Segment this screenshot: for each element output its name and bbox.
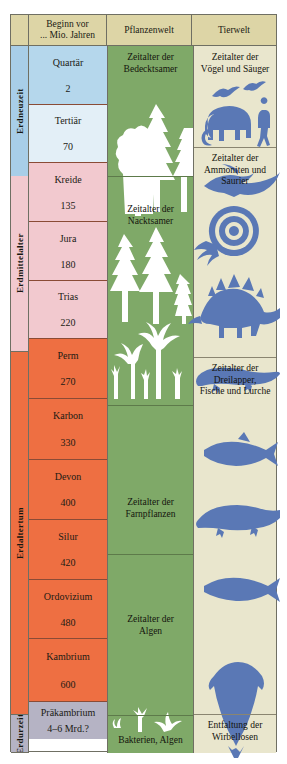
period-row-karbon[interactable]: Karbon330 bbox=[29, 398, 107, 459]
header-plants-column: Pflanzenwelt bbox=[106, 15, 191, 45]
stegosaurus-silhouette-icon bbox=[188, 274, 280, 338]
header-period-column: Beginn vor ... Mio. Jahren bbox=[28, 15, 106, 45]
period-name: Kambrium bbox=[46, 651, 89, 662]
period-age: 480 bbox=[61, 617, 76, 628]
bird-silhouette-icon bbox=[243, 81, 266, 90]
plant-section-divider bbox=[108, 405, 193, 406]
era-cell-erdurzeit[interactable]: Erdurzeit bbox=[11, 715, 28, 753]
period-row-silur[interactable]: Silur420 bbox=[29, 519, 107, 579]
period-age: 600 bbox=[61, 679, 76, 690]
period-row-kambrium[interactable]: Kambrium600 bbox=[29, 638, 107, 701]
trilobite-silhouette-icon bbox=[209, 662, 264, 758]
period-name: Devon bbox=[55, 471, 82, 482]
period-row-tertir[interactable]: Tertiär70 bbox=[29, 104, 107, 162]
animal-section-label: Entfaltung derWirbellosen bbox=[194, 720, 276, 743]
fish-silhouette-2-icon bbox=[204, 578, 280, 602]
label-line: Dreilapper, bbox=[196, 375, 274, 387]
animal-section-divider bbox=[194, 714, 276, 715]
conifer-tree-icon bbox=[139, 104, 175, 212]
label-line: Nacktsamer bbox=[110, 216, 191, 228]
bird-silhouette-icon bbox=[212, 86, 240, 97]
plant-section-label: Zeitalter derBedecktsamer bbox=[108, 52, 193, 75]
mammoth-silhouette-icon bbox=[202, 106, 251, 146]
label-line: Vögel und Säuger bbox=[196, 64, 274, 76]
label-line: Saurier bbox=[196, 176, 274, 188]
header-era-column bbox=[11, 15, 28, 45]
plant-section-label: Zeitalter derFarnpflanzen bbox=[108, 497, 193, 520]
algae-strand-icon bbox=[111, 365, 182, 399]
plant-section-label: Zeitalter derAlgen bbox=[108, 614, 193, 637]
period-row-kreide[interactable]: Kreide135 bbox=[29, 162, 107, 221]
era-cell-erdmittelalter[interactable]: Erdmittelalter bbox=[11, 176, 28, 352]
label-line: Zeitalter der bbox=[110, 204, 191, 216]
header-animals-column: Tierwelt bbox=[191, 15, 276, 45]
period-name: Perm bbox=[57, 350, 78, 361]
plant-section-divider bbox=[108, 554, 193, 555]
period-name: Präkambrium bbox=[41, 707, 95, 718]
era-cell-erdaltertum[interactable]: Erdaltertum bbox=[11, 352, 28, 715]
ammonite-silhouette-icon bbox=[194, 206, 259, 266]
crocodilian-silhouette-icon bbox=[196, 505, 280, 538]
period-row-ordovizium[interactable]: Ordovizium480 bbox=[29, 579, 107, 638]
label-line: Zeitalter der bbox=[196, 363, 274, 375]
period-row-quartr[interactable]: Quartär2 bbox=[29, 46, 107, 104]
animal-section-divider bbox=[194, 357, 276, 358]
period-name: Trias bbox=[58, 291, 78, 302]
period-age: 180 bbox=[61, 259, 76, 270]
period-name: Tertiär bbox=[55, 115, 82, 126]
animal-section-label: Zeitalter derDreilapper,Fische und Lurch… bbox=[194, 363, 276, 398]
animals-column: Zeitalter derVögel und SäugerZeitalter d… bbox=[193, 46, 276, 753]
animal-section-label: Zeitalter derVögel und Säuger bbox=[194, 52, 276, 75]
plant-section-label: Bakterien, Algen bbox=[108, 735, 193, 747]
period-age: 270 bbox=[61, 376, 76, 387]
label-line: Fische und Lurche bbox=[196, 386, 274, 398]
plant-section-divider bbox=[108, 715, 193, 716]
period-name: Karbon bbox=[53, 410, 83, 421]
label-line: Ammoniten und bbox=[196, 165, 274, 177]
label-line: Bakterien, Algen bbox=[110, 735, 191, 747]
period-row-trias[interactable]: Trias220 bbox=[29, 280, 107, 338]
plant-section-divider bbox=[108, 176, 193, 177]
header-period-line1: Beginn vor bbox=[40, 19, 95, 30]
era-cell-erdneuzeit[interactable]: Erdneuzeit bbox=[11, 46, 28, 176]
period-age: 70 bbox=[63, 141, 73, 152]
bacteria-strand-icon bbox=[113, 707, 182, 732]
period-name: Jura bbox=[60, 233, 77, 244]
conifer-tree-icon bbox=[173, 128, 193, 212]
label-line: Zeitalter der bbox=[196, 52, 274, 64]
label-line: Entfaltung der bbox=[196, 720, 274, 732]
era-column: ErdneuzeitErdmittelalterErdaltertumErdur… bbox=[11, 46, 28, 753]
period-row-perm[interactable]: Perm270 bbox=[29, 338, 107, 398]
animal-section-divider bbox=[194, 147, 276, 148]
label-line: Wirbellosen bbox=[196, 732, 274, 744]
label-line: Algen bbox=[110, 626, 191, 638]
period-row-prkambrium[interactable]: Präkambrium4–6 Mrd.? bbox=[29, 701, 107, 739]
period-age: 2 bbox=[66, 83, 71, 94]
label-line: Zeitalter der bbox=[110, 52, 191, 64]
fish-silhouette-icon bbox=[204, 432, 278, 466]
horsetail-icon bbox=[174, 274, 192, 324]
label-line: Zeitalter der bbox=[110, 614, 191, 626]
period-name: Silur bbox=[58, 531, 77, 542]
period-age: 400 bbox=[61, 497, 76, 508]
header-period-line2: ... Mio. Jahren bbox=[40, 30, 95, 41]
label-line: Zeitalter der bbox=[196, 153, 274, 165]
label-line: Bedecktsamer bbox=[110, 64, 191, 76]
human-silhouette-icon bbox=[257, 97, 270, 147]
plant-artwork bbox=[108, 84, 193, 414]
period-name: Quartär bbox=[53, 57, 84, 68]
period-age: 420 bbox=[61, 557, 76, 568]
period-name: Kreide bbox=[54, 174, 81, 185]
conifer-tree-icon bbox=[139, 227, 173, 324]
table-body: ErdneuzeitErdmittelalterErdaltertumErdur… bbox=[11, 46, 276, 753]
period-age: 135 bbox=[61, 200, 76, 211]
period-row-jura[interactable]: Jura180 bbox=[29, 221, 107, 280]
period-row-devon[interactable]: Devon400 bbox=[29, 459, 107, 519]
table-header-row: Beginn vor ... Mio. Jahren Pflanzenwelt … bbox=[11, 15, 276, 46]
palm-like-tree-icon bbox=[138, 322, 180, 399]
period-column: Quartär2Tertiär70Kreide135Jura180Trias22… bbox=[28, 46, 107, 753]
fern-tree-icon bbox=[114, 343, 143, 399]
period-age: 220 bbox=[61, 317, 76, 328]
plants-column: Zeitalter derBedecktsamerZeitalter derNa… bbox=[107, 46, 193, 753]
period-age: 330 bbox=[61, 437, 76, 448]
